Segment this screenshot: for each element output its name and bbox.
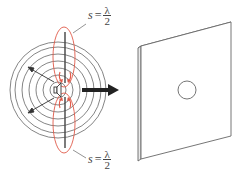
- label-bottom-denominator: 2: [104, 160, 110, 170]
- label-bottom-var: s: [88, 152, 93, 167]
- panel-hole: [178, 81, 196, 99]
- label-top-denominator: 2: [104, 16, 110, 26]
- label-bottom: s = λ 2: [88, 149, 111, 170]
- label-top-fraction: λ 2: [103, 5, 110, 26]
- loudspeaker-icon: [54, 83, 61, 97]
- label-top: s = λ 2: [88, 5, 111, 26]
- label-bottom-fraction: λ 2: [103, 149, 110, 170]
- label-bottom-eq: =: [95, 152, 102, 167]
- label-leader-top: [73, 24, 86, 33]
- diagram-canvas: [0, 0, 243, 182]
- label-top-var: s: [88, 8, 93, 23]
- baffle-panel: [138, 22, 231, 161]
- label-leader-bottom: [73, 150, 86, 158]
- label-top-eq: =: [95, 8, 102, 23]
